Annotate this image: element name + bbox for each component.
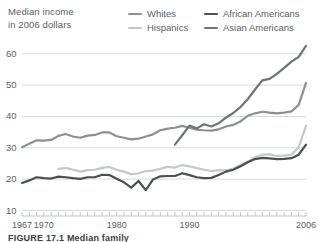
x-axis-tick-label: 1990 [179,220,199,230]
x-axis-labels: 19671970198019902006 [0,0,317,242]
x-axis-tick-label: 1970 [34,220,54,230]
x-axis-tick-label: 1967 [12,220,32,230]
chart-figure: Median income in 2006 dollars Whites Afr… [0,0,317,242]
figure-caption: FIGURE 17.1 Median family [8,233,198,242]
x-axis-tick-label: 1980 [107,220,127,230]
x-axis-tick-label: 2006 [296,220,316,230]
